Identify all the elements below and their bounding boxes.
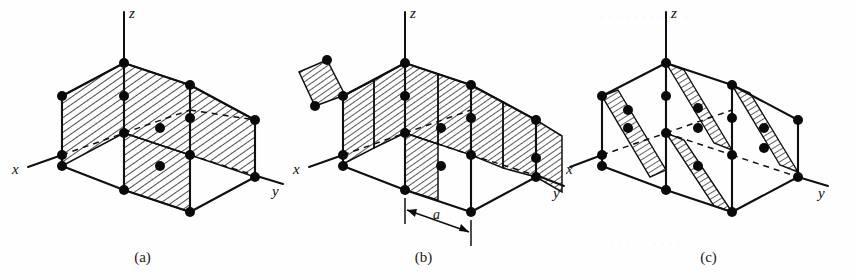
panel-b-diagram: z x y [281, 0, 566, 280]
panel-caption: (b) [281, 249, 566, 266]
lattice-plane-external [299, 60, 345, 106]
x-axis-label: x [11, 161, 19, 177]
lattice-plane [503, 102, 536, 177]
spacing-dimension [405, 198, 471, 246]
lattice-plane [438, 74, 471, 155]
z-axis-label: z [670, 5, 677, 21]
x-axis-label: x [292, 161, 300, 177]
lattice-plane [190, 85, 255, 177]
x-axis-label: x [566, 161, 573, 177]
lattice-plane [405, 63, 438, 144]
panel-b: z x y [281, 0, 566, 280]
z-axis-label: z [128, 5, 135, 21]
x-axis [309, 155, 343, 167]
panel-a-diagram: z x y [0, 0, 285, 280]
spacing-label: a [433, 207, 440, 222]
z-axis-label: z [409, 5, 416, 21]
panel-c-diagram: z x y [566, 0, 851, 280]
y-axis-label: y [816, 185, 825, 201]
crystal-plane-figure: . . . . . . . . . . . . . . . . . . . . … [0, 0, 856, 280]
lattice-plane [602, 90, 666, 177]
lattice-plane [374, 63, 405, 148]
panel-caption: (a) [0, 249, 285, 266]
panel-a: z x y [0, 0, 285, 280]
panel-caption: (c) [566, 249, 851, 266]
y-axis-label: y [270, 183, 279, 199]
x-axis [28, 155, 62, 167]
panel-c: z x y [566, 0, 851, 280]
